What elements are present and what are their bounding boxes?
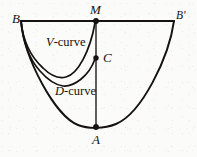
v-curve-label-prefix: V <box>46 35 54 49</box>
figure-canvas: B M B' C A V-curve D-curve <box>0 0 197 157</box>
d-curve-label: D-curve <box>55 85 96 98</box>
point-dot-C <box>93 55 98 60</box>
point-label-B-prime: B' <box>176 10 185 22</box>
point-label-C: C <box>103 51 112 64</box>
point-label-M: M <box>90 3 101 16</box>
v-curve-path <box>21 21 95 78</box>
v-curve-label-suffix: -curve <box>54 35 86 49</box>
point-dot-A <box>93 124 99 130</box>
d-curve-label-prefix: D <box>55 84 64 98</box>
v-curve-label: V-curve <box>46 36 86 49</box>
d-curve-label-suffix: -curve <box>64 84 96 98</box>
point-label-B: B <box>12 12 20 25</box>
point-dot-M <box>93 18 99 24</box>
point-label-A: A <box>92 133 100 146</box>
